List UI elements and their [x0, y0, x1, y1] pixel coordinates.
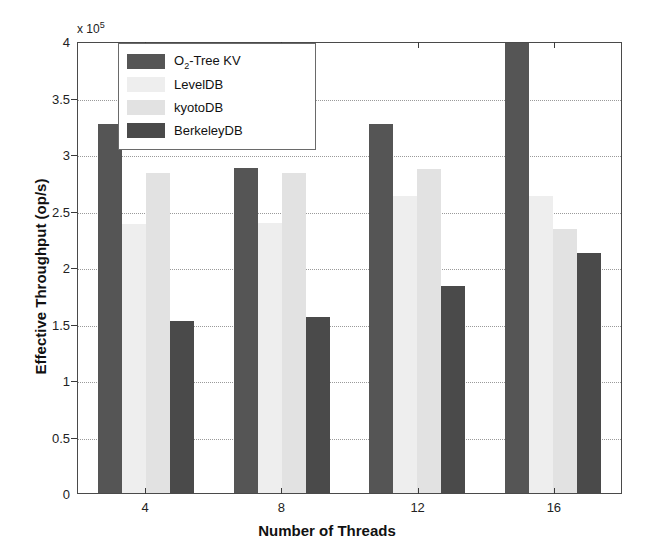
y-axis-tick-label: 0.5	[24, 430, 70, 445]
legend-swatch-icon	[127, 54, 165, 69]
y-axis-title: Effective Throughput (op/s)	[32, 77, 49, 477]
legend-item[interactable]: BerkeleyDB	[127, 119, 307, 142]
y-axis-tick-label: 2.5	[24, 204, 70, 219]
x-axis-title: Number of Threads	[0, 522, 654, 539]
bar[interactable]	[529, 196, 553, 493]
bar[interactable]	[282, 173, 306, 493]
bar[interactable]	[122, 224, 146, 493]
y-axis-tick-label: 0	[24, 487, 70, 502]
y-axis-tick-label: 4	[24, 35, 70, 50]
x-axis-tick-label: 8	[251, 500, 311, 515]
y-axis-exponent-power: 5	[100, 20, 105, 30]
x-axis-tick-label: 4	[115, 500, 175, 515]
legend-label: kyotoDB	[174, 100, 223, 115]
x-axis-tick-mark	[281, 488, 282, 494]
bar[interactable]	[234, 168, 258, 493]
legend-swatch-icon	[127, 123, 165, 138]
legend-item[interactable]: LevelDB	[127, 73, 307, 96]
y-axis-tick-label: 1	[24, 374, 70, 389]
bar[interactable]	[170, 321, 194, 493]
legend-swatch-icon	[127, 100, 165, 115]
bar[interactable]	[306, 317, 330, 493]
bar[interactable]	[258, 223, 282, 493]
bar[interactable]	[553, 229, 577, 493]
bar[interactable]	[393, 196, 417, 493]
bar[interactable]	[417, 169, 441, 493]
bar-group	[485, 43, 621, 493]
chart-legend: O2-Tree KV LevelDB kyotoDB BerkeleyDB	[118, 43, 316, 150]
bar[interactable]	[505, 42, 529, 493]
bar-chart-figure: x 105 Effective Throughput (op/s) 00.511…	[0, 0, 654, 555]
y-axis-tick-label: 2	[24, 261, 70, 276]
legend-label: LevelDB	[174, 77, 223, 92]
x-axis-tick-mark-top	[418, 42, 419, 48]
x-axis-tick-mark	[554, 488, 555, 494]
x-axis-tick-mark	[418, 488, 419, 494]
legend-item[interactable]: O2-Tree KV	[127, 50, 307, 73]
y-axis-tick-label: 3.5	[24, 91, 70, 106]
legend-label: O2-Tree KV	[174, 53, 241, 71]
y-axis-exponent-base: x 10	[77, 22, 100, 36]
bar[interactable]	[441, 286, 465, 493]
bar-group	[350, 43, 486, 493]
bar[interactable]	[577, 253, 601, 493]
bar[interactable]	[369, 124, 393, 494]
bar[interactable]	[98, 124, 122, 494]
x-axis-tick-mark-top	[554, 42, 555, 48]
x-axis-tick-label: 16	[524, 500, 584, 515]
y-axis-tick-label: 1.5	[24, 317, 70, 332]
bar[interactable]	[146, 173, 170, 493]
y-axis-exponent: x 105	[77, 20, 105, 36]
legend-swatch-icon	[127, 77, 165, 92]
y-axis-tick-label: 3	[24, 148, 70, 163]
legend-label: BerkeleyDB	[174, 123, 243, 138]
x-axis-tick-label: 12	[388, 500, 448, 515]
legend-item[interactable]: kyotoDB	[127, 96, 307, 119]
x-axis-tick-mark	[145, 488, 146, 494]
